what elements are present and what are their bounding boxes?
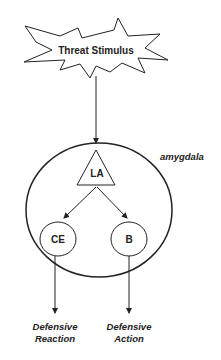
amygdala-label: amygdala: [160, 151, 204, 162]
la-label: LA: [90, 168, 103, 179]
ce-label: CE: [51, 234, 65, 245]
defensive-action-line1: Defensive: [107, 321, 153, 332]
amygdala-diagram: Threat Stimulus amygdala LA CE B Defensi…: [0, 0, 221, 360]
defensive-reaction-line2: Reaction: [35, 333, 75, 344]
la-to-ce-arrow: [64, 187, 96, 218]
threat-stimulus-starburst: Threat Stimulus: [24, 18, 168, 78]
b-label: B: [125, 234, 132, 245]
defensive-reaction-line1: Defensive: [33, 321, 79, 332]
defensive-action-line2: Action: [113, 333, 144, 344]
threat-stimulus-label: Threat Stimulus: [58, 45, 134, 56]
la-to-b-arrow: [97, 187, 127, 218]
